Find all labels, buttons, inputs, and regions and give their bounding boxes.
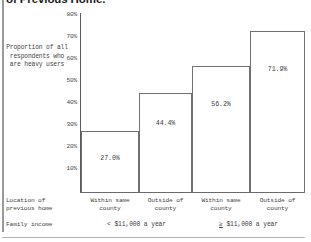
bar-value-3: 56.2% <box>192 101 250 109</box>
group-label-high-income-text: $11,000 a year <box>223 221 278 228</box>
row-header-location: Location of previous home <box>6 197 78 214</box>
group-label-high-income: ≥ $11,000 a year <box>192 221 305 229</box>
category-label-1: Within same county <box>81 197 139 214</box>
y-tick-20: 20% <box>56 143 77 150</box>
bar-value-2: 44.4% <box>139 120 192 128</box>
bar-outside-of-county-low-income <box>139 93 192 192</box>
bar-value-4: 71.9% <box>250 66 305 74</box>
y-tick-60: 60% <box>56 55 77 62</box>
page-rule-left <box>2 0 4 232</box>
row-header-income: Family income <box>6 221 78 229</box>
y-tick-10: 10% <box>56 165 77 172</box>
y-tick-40: 40% <box>56 99 77 106</box>
group-label-low-income-text: < $11,000 a year <box>107 221 166 228</box>
page-rule-bottom <box>2 237 305 238</box>
bar-value-1: 27.0% <box>81 155 139 163</box>
category-label-2: Outside of county <box>139 197 192 214</box>
group-label-low-income: < $11,000 a year <box>81 221 192 229</box>
y-tick-50: 50% <box>56 77 77 84</box>
chart-title: of Previous Home. <box>6 0 266 5</box>
bar-within-same-county-high-income <box>192 66 250 192</box>
category-label-4: Outside of county <box>250 197 305 214</box>
bar-chart-figure: of Previous Home. Proportion of all resp… <box>0 0 311 242</box>
y-tick-80: 80% <box>56 11 77 18</box>
y-tick-30: 30% <box>56 121 77 128</box>
bar-outside-of-county-high-income <box>250 31 305 192</box>
x-axis-line <box>80 192 305 193</box>
y-tick-70: 70% <box>56 33 77 40</box>
category-label-3: Within same county <box>192 197 250 214</box>
